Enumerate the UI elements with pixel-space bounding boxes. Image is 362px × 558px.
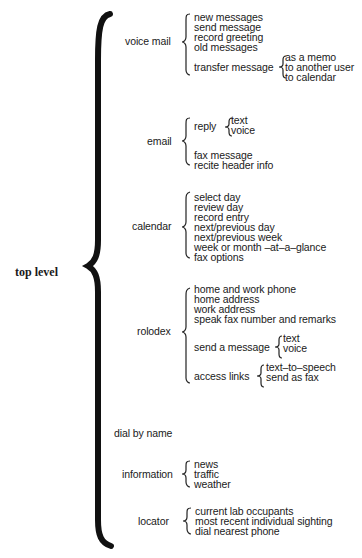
root-label: top level xyxy=(15,265,58,280)
leaf: dial nearest phone xyxy=(195,526,280,536)
sub-access-links: access links xyxy=(194,371,249,381)
leaf: speak fax number and remarks xyxy=(194,314,336,324)
leaf: voice xyxy=(231,125,255,135)
leaf: send as fax xyxy=(266,372,319,382)
leaf: recite header info xyxy=(194,160,273,170)
top-level-brace-icon xyxy=(88,14,111,546)
sub-send-a-message: send a message xyxy=(194,342,270,352)
leaf: voice xyxy=(283,343,307,353)
leaf: fax options xyxy=(194,252,244,262)
branch-voice-mail: voice mail xyxy=(125,36,171,46)
leaf: old messages xyxy=(194,42,258,52)
leaf: to calendar xyxy=(285,72,336,82)
branch-dial-by-name: dial by name xyxy=(114,428,172,438)
branch-locator: locator xyxy=(138,516,169,526)
branch-calendar: calendar xyxy=(132,221,171,231)
branch-information: information xyxy=(122,469,173,479)
sub-transfer-message: transfer message xyxy=(194,62,274,72)
leaf: weather xyxy=(194,479,231,489)
branch-rolodex: rolodex xyxy=(137,326,171,336)
sub-reply: reply xyxy=(194,121,216,131)
branch-email: email xyxy=(147,136,172,146)
